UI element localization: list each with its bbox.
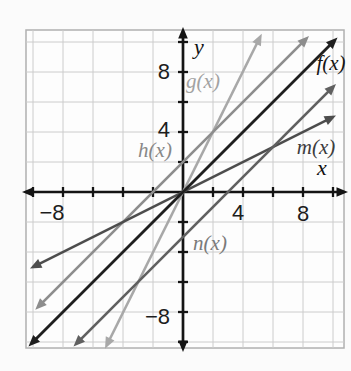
label-h: h(x) [138,138,172,162]
label-n: n(x) [193,231,227,255]
x-tick-label-4: 4 [232,200,244,225]
label-m: m(x) [297,135,335,159]
linear-functions-figure: −84884−8xyf(x)g(x)h(x)m(x)n(x) [0,0,351,371]
x-tick-label-8: 8 [297,201,309,226]
label-g: g(x) [186,69,220,93]
label-f: f(x) [316,51,345,75]
y-tick-label--8: −8 [145,304,170,329]
y-axis-label: y [192,34,204,59]
y-tick-label-8: 8 [158,59,170,84]
x-tick-label--8: −8 [39,200,64,225]
coordinate-grid-canvas: −84884−8xyf(x)g(x)h(x)m(x)n(x) [0,0,351,371]
